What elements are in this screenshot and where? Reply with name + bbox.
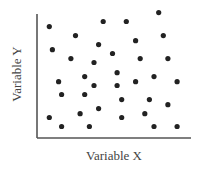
data-point — [56, 79, 61, 84]
data-point — [165, 102, 170, 107]
data-point — [119, 97, 124, 102]
data-point — [82, 92, 87, 97]
data-point — [133, 38, 138, 43]
data-point — [133, 79, 138, 84]
data-point — [96, 42, 101, 47]
data-point — [73, 33, 78, 38]
data-point — [91, 60, 96, 65]
data-point — [161, 33, 166, 38]
data-point — [82, 74, 87, 79]
data-point — [165, 56, 170, 61]
data-point — [151, 74, 156, 79]
data-point — [151, 124, 156, 129]
data-point — [175, 79, 180, 84]
data-point — [87, 124, 92, 129]
data-point — [156, 10, 161, 15]
data-point — [101, 19, 106, 24]
data-point — [59, 92, 64, 97]
data-point — [78, 111, 83, 116]
data-point — [47, 24, 52, 29]
data-point — [124, 19, 129, 24]
data-point — [115, 70, 120, 75]
data-point — [91, 83, 96, 88]
data-point — [47, 115, 52, 120]
data-point — [147, 97, 152, 102]
data-point — [175, 124, 180, 129]
data-point — [119, 115, 124, 120]
data-point — [115, 83, 120, 88]
data-point — [50, 47, 55, 52]
data-point — [142, 111, 147, 116]
data-point — [59, 124, 64, 129]
data-point — [68, 56, 73, 61]
data-point — [110, 51, 115, 56]
y-axis-label: Variable Y — [9, 46, 25, 101]
y-axis-label-container: Variable Y — [2, 24, 32, 124]
data-points — [47, 10, 180, 129]
data-point — [96, 106, 101, 111]
x-axis-label: Variable X — [37, 148, 191, 164]
data-point — [138, 56, 143, 61]
